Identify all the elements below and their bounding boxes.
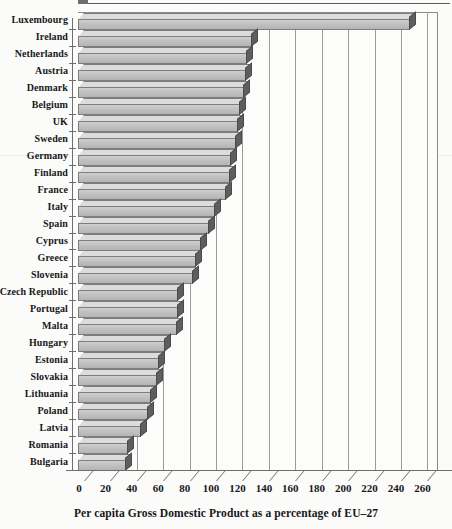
category-label-romania: Romania [28, 439, 68, 450]
top-corner-mark [78, 0, 88, 4]
bar-germany [78, 149, 237, 165]
bar-side-face [164, 333, 171, 352]
bar-front-face [78, 53, 247, 64]
x-tick-220 [375, 470, 385, 481]
category-label-sweden: Sweden [35, 133, 68, 144]
x-tick-100 [216, 470, 226, 481]
category-label-denmark: Denmark [27, 82, 68, 93]
bar-poland [78, 403, 154, 419]
bar-series [78, 12, 438, 470]
bar-front-face [78, 324, 177, 335]
category-label-estonia: Estonia [35, 354, 68, 365]
x-tick-label-180: 180 [308, 482, 325, 494]
x-tick-label-140: 140 [256, 482, 273, 494]
category-label-spain: Spain [43, 218, 68, 229]
bar-front-face [78, 443, 128, 454]
bar-malta [78, 318, 183, 334]
bar-denmark [78, 81, 250, 97]
bar-side-face [192, 266, 199, 285]
x-tick-label-20: 20 [100, 482, 111, 494]
category-label-uk: UK [53, 116, 68, 127]
value-axis-line [72, 18, 73, 470]
x-axis: 020406080100120140160180200220240260 [72, 470, 452, 500]
bar-latvia [78, 420, 147, 436]
category-label-greece: Greece [38, 252, 68, 263]
category-label-italy: Italy [48, 201, 69, 212]
bar-front-face [78, 155, 231, 166]
x-tick-label-200: 200 [335, 482, 352, 494]
x-tick-label-0: 0 [76, 482, 82, 494]
bar-front-face [78, 172, 230, 183]
bar-czech-republic [78, 284, 184, 300]
category-label-netherlands: Netherlands [15, 48, 68, 59]
bar-hungary [78, 335, 171, 351]
bar-slovenia [78, 267, 199, 283]
bar-side-face [140, 418, 147, 437]
bar-greece [78, 250, 202, 266]
bar-side-face [176, 316, 183, 335]
bar-front-face [78, 358, 159, 369]
category-label-slovenia: Slovenia [31, 269, 68, 280]
bar-portugal [78, 301, 184, 317]
category-label-finland: Finland [34, 167, 68, 178]
bar-front-face [78, 290, 178, 301]
x-tick-label-40: 40 [126, 482, 137, 494]
category-label-portugal: Portugal [30, 303, 68, 314]
x-tick-label-60: 60 [153, 482, 164, 494]
bar-austria [78, 64, 252, 80]
bar-sweden [78, 132, 242, 148]
bar-front-face [78, 189, 226, 200]
x-tick-20 [110, 470, 120, 481]
x-tick-label-120: 120 [229, 482, 246, 494]
x-tick-label-220: 220 [361, 482, 378, 494]
chart-root: LuxembourgIrelandNetherlandsAustriaDenma… [0, 0, 452, 529]
category-label-ireland: Ireland [36, 31, 68, 42]
top-border-rule [78, 3, 450, 4]
category-label-austria: Austria [35, 65, 68, 76]
x-tick-label-260: 260 [414, 482, 431, 494]
bar-front-face [78, 206, 215, 217]
category-label-belgium: Belgium [32, 99, 68, 110]
bar-front-face [78, 307, 178, 318]
bar-italy [78, 200, 221, 216]
x-tick-140 [269, 470, 279, 481]
bar-front-face [78, 392, 151, 403]
bar-front-face [78, 375, 157, 386]
plot-area [78, 12, 438, 470]
category-label-hungary: Hungary [29, 337, 68, 348]
x-tick-120 [242, 470, 252, 481]
x-tick-0 [84, 470, 94, 481]
bar-romania [78, 437, 134, 453]
x-tick-260 [427, 470, 437, 481]
bar-front-face [78, 341, 165, 352]
bar-front-face [78, 240, 201, 251]
bar-belgium [78, 98, 246, 114]
category-label-bulgaria: Bulgaria [30, 456, 68, 467]
category-label-germany: Germany [27, 150, 68, 161]
bar-estonia [78, 352, 165, 368]
x-tick-label-100: 100 [203, 482, 220, 494]
x-tick-label-240: 240 [388, 482, 405, 494]
category-label-luxembourg: Luxembourg [11, 14, 68, 25]
bar-front-face [78, 138, 236, 149]
x-tick-40 [137, 470, 147, 481]
bar-lithuania [78, 386, 157, 402]
bar-front-face [78, 19, 410, 30]
category-label-poland: Poland [37, 405, 68, 416]
bar-spain [78, 217, 215, 233]
bar-front-face [78, 256, 196, 267]
bar-slovakia [78, 369, 163, 385]
bar-front-face [78, 121, 238, 132]
bar-front-face [78, 36, 252, 47]
x-tick-240 [401, 470, 411, 481]
category-axis-labels: LuxembourgIrelandNetherlandsAustriaDenma… [0, 12, 76, 470]
bar-ireland [78, 30, 258, 46]
bar-cyprus [78, 234, 207, 250]
bar-netherlands [78, 47, 253, 63]
category-label-lithuania: Lithuania [25, 388, 68, 399]
category-label-france: France [37, 184, 68, 195]
bar-front-face [78, 70, 246, 81]
x-tick-60 [163, 470, 173, 481]
bar-front-face [78, 223, 209, 234]
category-label-latvia: Latvia [40, 422, 68, 433]
